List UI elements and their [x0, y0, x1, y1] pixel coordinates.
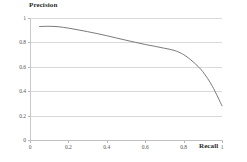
x-tick: 0.8: [174, 144, 194, 151]
x-tick-label: 0.4: [97, 144, 117, 151]
precision-recall-curve: [40, 26, 222, 106]
x-tick-label: 1: [212, 144, 232, 151]
y-tick-label: 0.4: [19, 88, 26, 94]
x-tick-mark: [184, 141, 185, 143]
y-axis-title: Precision: [29, 1, 57, 9]
y-tick: 0.8: [8, 39, 26, 45]
x-tick: 0: [20, 144, 40, 151]
y-tick: 0.4: [8, 88, 26, 94]
x-tick-label: 0.8: [174, 144, 194, 151]
x-tick-label: 0.2: [58, 144, 78, 151]
y-tick: 0.6: [8, 64, 26, 70]
y-tick-label: 0.6: [19, 64, 26, 70]
x-tick-label: 0: [20, 144, 40, 151]
y-tick-label: 1: [23, 15, 26, 21]
y-tick: 0: [8, 137, 26, 143]
precision-recall-chart: Precision Recall 00.20.40.60.81 00.20.40…: [0, 0, 247, 162]
x-tick-mark: [30, 141, 31, 143]
x-tick-mark: [68, 141, 69, 143]
x-tick: 1: [212, 144, 232, 151]
y-tick-label: 0.8: [19, 39, 26, 45]
x-tick: 0.6: [135, 144, 155, 151]
y-tick: 1: [8, 15, 26, 21]
x-tick: 0.4: [97, 144, 117, 151]
x-tick-mark: [222, 141, 223, 143]
curve-svg: [30, 18, 222, 140]
y-tick-label: 0.2: [19, 113, 26, 119]
x-tick: 0.2: [58, 144, 78, 151]
y-tick: 0.2: [8, 113, 26, 119]
x-tick-label: 0.6: [135, 144, 155, 151]
x-tick-mark: [145, 141, 146, 143]
x-tick-mark: [107, 141, 108, 143]
x-axis-line: [30, 140, 223, 141]
y-tick-label: 0: [23, 137, 26, 143]
